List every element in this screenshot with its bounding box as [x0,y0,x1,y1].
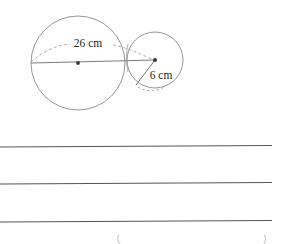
large-circle-center-dot [76,61,80,65]
large-circle-diameter-label: 26 cm [74,37,102,49]
cropped-glyph-left-icon [118,235,120,244]
answer-lines-area [0,130,284,244]
large-circle-leader-left [31,44,70,62]
answer-line-1 [0,146,272,148]
small-circle-center-dot [153,58,157,62]
cropped-glyph-right-icon [264,235,266,244]
small-circle-radius-label: 6 cm [150,69,173,81]
answer-line-2 [0,183,272,185]
diameter-line [31,60,155,63]
large-circle-leader-right [113,45,154,60]
answer-line-3 [0,221,272,223]
figure-area: 26 cm 6 cm [0,0,284,130]
ruled-lines [0,130,284,244]
worksheet-page: 26 cm 6 cm [0,0,284,244]
two-circles-figure: 26 cm 6 cm [0,0,284,130]
